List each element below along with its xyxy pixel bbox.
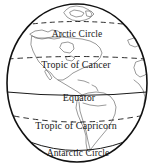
globe-graphic <box>0 0 154 167</box>
globe-diagram: Arctic Circle Tropic of Cancer Equator T… <box>0 0 154 167</box>
